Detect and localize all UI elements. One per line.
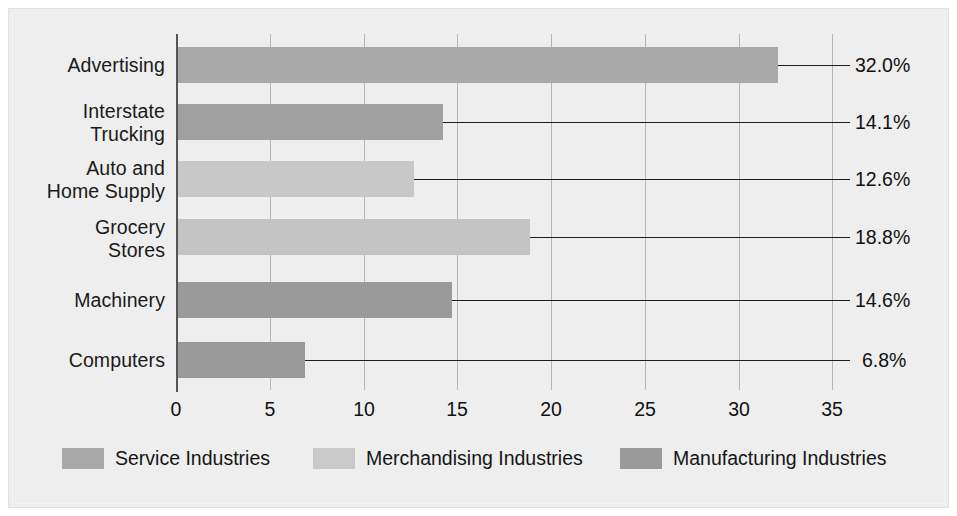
xtick-label-20: 20	[540, 398, 562, 420]
gridline-35	[832, 34, 833, 390]
category-label-computers: Computers	[10, 349, 165, 372]
category-label-grocery-stores: Grocery Stores	[10, 216, 165, 262]
gridline-10	[364, 34, 365, 390]
xtick-label-0: 0	[171, 398, 182, 420]
value-label-machinery: 14.6%	[855, 289, 910, 311]
chart-screenshot: 32.0% 14.1% 12.6% 18.8% 14.6% 6.8% Adver…	[0, 0, 957, 516]
value-label-grocery-stores: 18.8%	[855, 226, 910, 248]
xtick-label-25: 25	[634, 398, 656, 420]
category-label-machinery: Machinery	[10, 289, 165, 312]
legend-swatch-service-industries	[62, 448, 104, 469]
legend-label-manufacturing-industries: Manufacturing Industries	[673, 447, 887, 469]
legend-swatch-merchandising-industries	[313, 448, 355, 469]
legend-label-service-industries: Service Industries	[115, 447, 270, 469]
value-axis	[176, 34, 178, 392]
leader-line-interstate-trucking	[443, 122, 850, 123]
leader-line-machinery	[452, 300, 850, 301]
bar-advertising	[178, 47, 778, 83]
legend-item-manufacturing-industries: Manufacturing Industries	[620, 447, 887, 469]
bar-computers	[178, 342, 305, 378]
legend-item-merchandising-industries: Merchandising Industries	[313, 447, 583, 469]
value-label-interstate-trucking: 14.1%	[855, 111, 910, 133]
bar-grocery-stores	[178, 219, 530, 255]
bar-auto-and-home-supply	[178, 161, 414, 197]
chart-legend: Service Industries Merchandising Industr…	[0, 447, 957, 477]
gridline-20	[551, 34, 552, 390]
legend-label-merchandising-industries: Merchandising Industries	[366, 447, 583, 469]
leader-line-auto-and-home-supply	[414, 179, 850, 180]
value-label-auto-and-home-supply: 12.6%	[855, 168, 910, 190]
leader-line-computers	[305, 360, 850, 361]
legend-swatch-manufacturing-industries	[620, 448, 662, 469]
leader-line-grocery-stores	[530, 237, 850, 238]
category-label-advertising: Advertising	[10, 54, 165, 77]
leader-line-advertising	[778, 65, 850, 66]
value-label-advertising: 32.0%	[855, 54, 910, 76]
xtick-label-30: 30	[728, 398, 750, 420]
xtick-label-5: 5	[265, 398, 276, 420]
category-label-interstate-trucking: Interstate Trucking	[10, 100, 165, 146]
legend-item-service-industries: Service Industries	[62, 447, 270, 469]
bar-interstate-trucking	[178, 104, 443, 140]
xtick-label-35: 35	[821, 398, 843, 420]
gridline-15	[457, 34, 458, 390]
xtick-label-15: 15	[446, 398, 468, 420]
bar-chart: 32.0% 14.1% 12.6% 18.8% 14.6% 6.8% Adver…	[0, 0, 957, 516]
gridline-25	[645, 34, 646, 390]
gridline-5	[270, 34, 271, 390]
xtick-label-10: 10	[353, 398, 375, 420]
gridline-30	[739, 34, 740, 390]
category-label-auto-and-home-supply: Auto and Home Supply	[10, 157, 165, 203]
value-label-computers: 6.8%	[862, 349, 906, 371]
bar-machinery	[178, 282, 452, 318]
